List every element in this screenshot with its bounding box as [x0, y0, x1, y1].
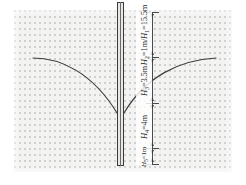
- dimension-label-h2h1: H2=1m/H1=15.5m: [137, 12, 151, 58]
- drawdown-curve-left: [33, 58, 117, 113]
- dimension-label-h5: H5=1m: [137, 149, 151, 165]
- dimension-label-h4: H4=4m: [137, 104, 151, 149]
- pile-centerline: [120, 2, 121, 166]
- dimension-label-h3: H3=3.5m: [137, 58, 151, 104]
- figure-canvas: H2=1m/H1=15.5m H3=3.5m H4=4m H5=1m: [0, 0, 246, 185]
